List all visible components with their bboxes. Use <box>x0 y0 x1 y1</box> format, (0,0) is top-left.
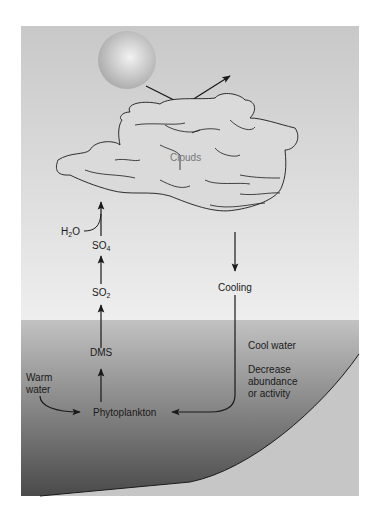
sun-icon <box>98 31 156 89</box>
decrease-line3: or activity <box>248 388 298 400</box>
so4-sub: 4 <box>106 245 110 252</box>
label-dms: DMS <box>90 347 112 359</box>
so2-sub: 2 <box>106 292 110 299</box>
warm-water-line1: Warm <box>26 372 52 384</box>
label-h2o: H2O <box>61 226 80 238</box>
label-so4: SO4 <box>92 240 110 252</box>
decrease-line1: Decrease <box>248 364 298 376</box>
label-decrease: Decrease abundance or activity <box>248 364 298 400</box>
label-so2: SO2 <box>92 287 110 299</box>
label-cool-water: Cool water <box>248 340 296 352</box>
decrease-line2: abundance <box>248 376 298 388</box>
so4-main: SO <box>92 240 106 251</box>
label-cooling: Cooling <box>218 282 252 294</box>
h2o-tail: O <box>72 226 80 237</box>
label-warm-water: Warm water <box>26 372 52 396</box>
label-phytoplankton: Phytoplankton <box>93 407 156 419</box>
so2-main: SO <box>92 287 106 298</box>
diagram-canvas <box>0 0 377 521</box>
label-clouds: Clouds <box>170 152 201 164</box>
warm-water-line2: water <box>26 384 52 396</box>
